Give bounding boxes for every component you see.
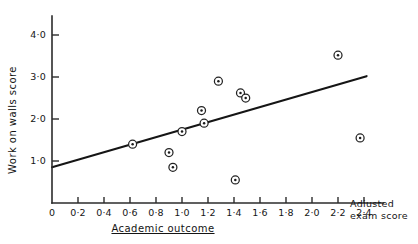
x-tick-label: 0·6 <box>122 207 138 218</box>
data-point-marker <box>129 140 137 148</box>
plot-canvas: 00·20·40·60·81·01·21·41·61·82·02·22·4 1·… <box>0 0 418 244</box>
x-tick-label: 1·0 <box>174 207 190 218</box>
regression-line <box>52 76 367 167</box>
y-tick-label: 2·0 <box>30 113 46 124</box>
fit-line <box>52 76 367 167</box>
x-tick-label: 1·2 <box>200 207 216 218</box>
y-axis-tick-labels: 1·02·03·04·0 <box>30 29 46 166</box>
tick-marks <box>52 35 364 203</box>
x-axis-origin-label: 0 <box>49 207 55 218</box>
data-point-marker <box>356 134 364 142</box>
data-point-marker <box>198 107 206 115</box>
data-point-marker <box>231 176 239 184</box>
data-point-marker <box>214 77 222 85</box>
x-tick-label: 1·8 <box>278 207 294 218</box>
data-point-marker <box>242 94 250 102</box>
y-tick-label: 4·0 <box>30 29 46 40</box>
x-axis-corner-label-line2: exam score <box>350 210 408 221</box>
x-tick-label: 2·0 <box>304 207 320 218</box>
y-axis-title: Work on walls score <box>7 66 18 174</box>
x-axis-tick-labels: 00·20·40·60·81·01·21·41·61·82·02·22·4 <box>49 207 372 218</box>
data-point-marker <box>165 149 173 157</box>
scatter-plot-figure: 00·20·40·60·81·01·21·41·61·82·02·22·4 1·… <box>0 0 418 244</box>
x-axis-corner-label-line1: Adiusted <box>350 198 394 209</box>
x-tick-label: 0·8 <box>148 207 164 218</box>
data-point-marker <box>178 128 186 136</box>
axes <box>52 16 384 203</box>
y-tick-label: 1·0 <box>30 155 46 166</box>
data-point-marker <box>334 51 342 59</box>
x-tick-label: 0·4 <box>96 207 112 218</box>
x-tick-label: 2·2 <box>330 207 346 218</box>
data-point-marker <box>169 163 177 171</box>
data-points <box>129 51 365 184</box>
data-point-marker <box>200 119 208 127</box>
x-axis-title: Academic outcome <box>111 223 214 234</box>
x-tick-label: 1·6 <box>252 207 268 218</box>
x-tick-label: 1·4 <box>226 207 242 218</box>
y-tick-label: 3·0 <box>30 71 46 82</box>
x-tick-label: 0·2 <box>70 207 86 218</box>
